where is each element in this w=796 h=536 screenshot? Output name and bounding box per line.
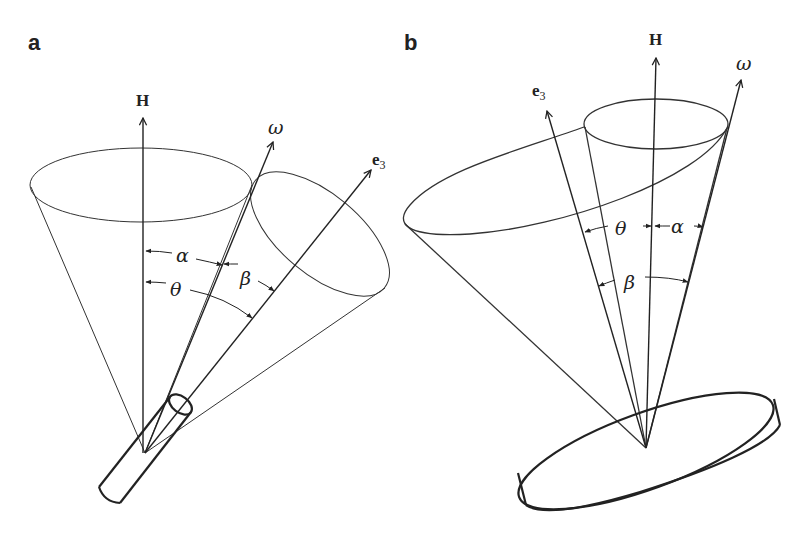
omega-vector-a bbox=[145, 142, 273, 453]
angle-beta-a: β bbox=[224, 264, 274, 291]
panel-label-a: a bbox=[28, 30, 41, 55]
angle-alpha-a: α bbox=[146, 244, 222, 266]
omega-label-a: ω bbox=[268, 116, 284, 138]
e3-label-a: e3 bbox=[372, 150, 386, 172]
svg-text:β: β bbox=[239, 267, 251, 289]
h-label-a: H bbox=[136, 91, 149, 110]
svg-text:θ: θ bbox=[170, 278, 182, 300]
disc-body-b bbox=[506, 369, 786, 533]
h-label-b: H bbox=[649, 30, 662, 49]
precession-diagram: a H ω e3 α bbox=[0, 0, 796, 536]
panel-a: a H ω e3 α bbox=[28, 30, 410, 503]
e3-vector-a bbox=[145, 170, 371, 453]
e3-label-b: e3 bbox=[532, 81, 546, 103]
panel-b: b H ω e3 θ bbox=[403, 30, 785, 533]
body-cone-a bbox=[145, 149, 410, 453]
angle-theta-a: θ bbox=[146, 278, 252, 318]
svg-text:α: α bbox=[671, 215, 684, 237]
svg-text:β: β bbox=[623, 271, 635, 293]
omega-label-b: ω bbox=[736, 52, 752, 74]
angle-alpha-b: α bbox=[655, 215, 703, 237]
angle-theta-b: θ bbox=[585, 217, 651, 239]
h-vector-b bbox=[646, 58, 656, 448]
panel-label-b: b bbox=[404, 30, 417, 55]
svg-text:θ: θ bbox=[615, 217, 627, 239]
space-cone-a bbox=[30, 148, 252, 453]
svg-text:α: α bbox=[176, 244, 189, 266]
